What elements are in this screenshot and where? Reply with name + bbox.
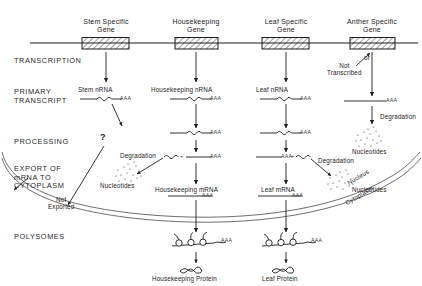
nucleotide-cloud-anther bbox=[355, 126, 381, 146]
gene-label-anther: Anther Specific Gene bbox=[340, 18, 404, 34]
transcript-housekeeping bbox=[170, 97, 212, 100]
gene-label-housekeeping: Housekeeping Gene bbox=[164, 18, 228, 34]
gene-label-stem: Stem Specific Gene bbox=[76, 18, 136, 34]
protein-label-leaf: Leaf Protein bbox=[262, 275, 298, 282]
dna-backbone bbox=[30, 38, 418, 50]
protein-leaf-glyph bbox=[272, 267, 294, 273]
stem-not-exported-arrow bbox=[68, 104, 122, 205]
stage-label-transcription: TRANSCRIPTION bbox=[14, 57, 82, 66]
polya-stem-nrna: AAA bbox=[120, 96, 131, 102]
polya-polysome-housekeeping: AAA bbox=[221, 238, 232, 244]
degradation-label-housekeeping: Degradation bbox=[120, 152, 156, 159]
polya-polysome-leaf: AAA bbox=[311, 238, 322, 244]
stage-label-processing: PROCESSING bbox=[14, 138, 69, 147]
mrna-label-leaf: Leaf mRNA bbox=[261, 186, 295, 193]
not-transcribed-label: Not Transcribed bbox=[327, 62, 362, 76]
degradation-label-anther: Degradation bbox=[380, 113, 416, 120]
nucleotides-label-housekeeping: Nucleotides bbox=[100, 182, 135, 189]
or-label: or bbox=[364, 54, 370, 61]
stage-label-primary-transcript: PRIMARY TRANSCRIPT bbox=[14, 88, 67, 105]
stage-label-polysomes: POLYSOMES bbox=[14, 233, 65, 242]
polya-housekeeping-int2: AAA bbox=[210, 154, 221, 160]
gene-box-housekeeping bbox=[175, 38, 218, 50]
protein-label-housekeeping: Housekeeping Protein bbox=[152, 275, 217, 282]
polya-anther-transcript: AAA bbox=[386, 98, 397, 104]
degradation-label-leaf: Degradation bbox=[318, 157, 354, 164]
degradation-arrows bbox=[137, 158, 331, 176]
plus-sign-leaf: + bbox=[291, 154, 294, 160]
gene-box-leaf bbox=[262, 38, 309, 50]
not-exported-label: Not Exported bbox=[48, 196, 74, 210]
processing-arrows bbox=[196, 104, 286, 184]
polya-housekeeping-mrna: AAA bbox=[202, 193, 213, 199]
question-mark-label: ? bbox=[100, 132, 106, 142]
nrna-label-stem: Stem nRNA bbox=[78, 86, 113, 93]
polya-housekeeping-int1: AAA bbox=[210, 130, 221, 136]
gene-label-leaf: Leaf Specific Gene bbox=[256, 18, 316, 34]
polya-housekeeping-nrna: AAA bbox=[210, 96, 221, 102]
gene-expression-diagram: TRANSCRIPTION PRIMARY TRANSCRIPT PROCESS… bbox=[0, 0, 422, 286]
polysome-housekeeping bbox=[172, 232, 226, 246]
protein-housekeeping-glyph bbox=[180, 267, 202, 273]
polysome-leaf bbox=[262, 232, 316, 246]
processing-intermediate-1 bbox=[170, 131, 302, 134]
polya-leaf-nrna: AAA bbox=[300, 96, 311, 102]
nucleotide-cloud-housekeeping bbox=[115, 161, 141, 181]
nrna-label-housekeeping: Housekeeping nRNA bbox=[151, 86, 212, 93]
translation-arrows bbox=[196, 252, 286, 263]
nrna-label-leaf: Leaf nRNA bbox=[256, 86, 288, 93]
gene-box-anther bbox=[350, 38, 395, 50]
polya-leaf-mrna: AAA bbox=[292, 193, 303, 199]
nucleotides-label-anther: Nucleotides bbox=[352, 148, 387, 155]
gene-box-stem bbox=[82, 38, 129, 50]
polya-leaf-int1: AAA bbox=[300, 130, 311, 136]
transcript-stem bbox=[80, 97, 122, 100]
plus-sign-housekeeping: + bbox=[180, 154, 183, 160]
stage-label-export: EXPORT OF mRNA TO CYTOPLASM bbox=[14, 165, 64, 191]
transcript-leaf bbox=[260, 97, 302, 100]
